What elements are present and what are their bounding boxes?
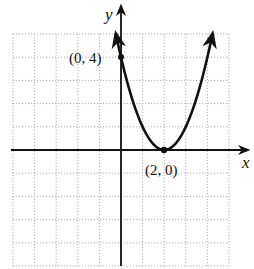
vertex-label: (2, 0) xyxy=(145,162,178,179)
y-axis-label: y xyxy=(103,5,113,24)
y-intercept-label: (0, 4) xyxy=(69,50,102,67)
vertex-point xyxy=(161,147,167,153)
x-axis-label: x xyxy=(241,153,250,172)
y-intercept-point xyxy=(118,54,124,60)
parabola-graph: y x (0, 4) (2, 0) xyxy=(0,0,254,269)
